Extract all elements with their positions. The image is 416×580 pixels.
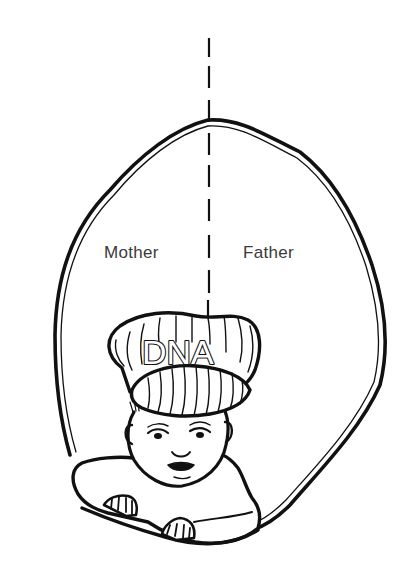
father-label: Father [243,243,294,263]
dividing-dashed-line [208,38,209,318]
baby [73,400,260,544]
dna-cap: DNA [109,313,260,416]
mother-father-dna-illustration: DNA [0,0,416,580]
cap-dna-text: DNA [142,333,214,371]
mother-label: Mother [104,243,159,263]
